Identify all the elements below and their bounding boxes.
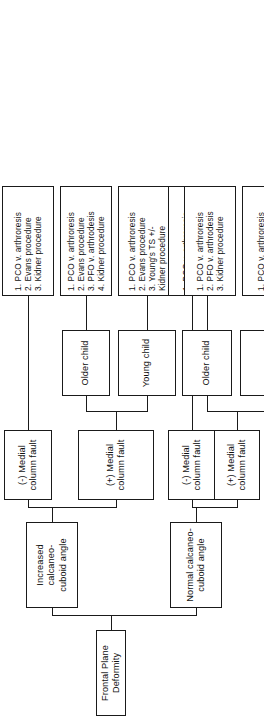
node-normal-calcaneocuboid-angle: Normal calcaneo- cuboid angle	[170, 522, 222, 608]
connector-nrm-pos-older	[207, 396, 208, 412]
connector-root-out	[111, 616, 112, 630]
connector-normal-out	[196, 508, 197, 522]
connector-inc-pos-older	[86, 396, 87, 412]
connector-nrm-pos-spine	[207, 411, 264, 412]
connector-to-increased	[52, 608, 53, 616]
connector-normal-pos	[237, 500, 238, 508]
node-label: Older child	[80, 339, 91, 388]
treatment-list: 1. PCO v. arthroresis 2. PFO v. arthrode…	[195, 207, 225, 295]
leaf-normal-young-child-treatments: 1. PCO v. arthroresis 2. Young's TS +/- …	[242, 186, 264, 296]
node-increased-negative-medial-column-fault: (-) Medial column fault	[4, 430, 52, 500]
node-normal-negative-medial-column-fault: (-) Medial column fault	[168, 430, 216, 500]
connector-increased-pos	[116, 500, 117, 508]
node-normal-older-child: Older child	[182, 330, 232, 396]
node-label: Young child	[141, 337, 152, 389]
connector-inc-pos-spine	[86, 411, 147, 412]
flowchart-canvas: Frontal Plane Deformity Increased calcan…	[0, 0, 264, 726]
node-label: Increased calcaneo- cuboid angle	[35, 523, 69, 607]
connector-root-spine	[52, 615, 196, 616]
treatment-list: 1. PCO v. arthroresis 2. Young's TS +/- …	[256, 208, 264, 295]
treatment-list: 1. PCO v. arthroresis 2. Evans procedure…	[127, 208, 167, 295]
connector-to-normal	[196, 608, 197, 616]
node-root-frontal-plane-deformity: Frontal Plane Deformity	[96, 630, 126, 716]
node-increased-calcaneocuboid-angle: Increased calcaneo- cuboid angle	[26, 522, 78, 608]
node-label: Frontal Plane Deformity	[100, 631, 122, 715]
treatment-list: 1. PCO v. arthroresis 2. Evans procedure…	[13, 208, 43, 295]
node-label: (+) Medial column fault	[105, 438, 127, 493]
connector-nrm-older-to-tx	[207, 296, 208, 330]
node-increased-older-child: Older child	[62, 330, 110, 396]
node-label: Older child	[201, 339, 212, 388]
connector-inc-older-to-tx	[86, 296, 87, 330]
connector-normal-spine	[192, 507, 237, 508]
connector-normal-neg	[192, 500, 193, 508]
node-label: (-) Medial column fault	[17, 438, 39, 493]
leaf-normal-older-child-treatments: 1. PCO v. arthroresis 2. PFO v. arthrode…	[184, 186, 236, 296]
connector-increased-out	[52, 508, 53, 522]
leaf-increased-older-child-treatments: 1. PCO v. arthroresis 2. Evans procedure…	[60, 186, 112, 296]
leaf-increased-negative-mcf-treatments: 1. PCO v. arthroresis 2. Evans procedure…	[2, 186, 54, 296]
node-label: (-) Medial column fault	[181, 438, 203, 493]
diagram-rotation-wrapper: Frontal Plane Deformity Increased calcan…	[0, 0, 264, 726]
connector-nrm-pos-out	[237, 412, 238, 430]
node-increased-positive-medial-column-fault: (+) Medial column fault	[78, 430, 154, 500]
connector-inc-neg-to-tx	[28, 296, 29, 430]
node-label: Normal calcaneo- cuboid angle	[185, 526, 207, 604]
connector-increased-neg	[28, 500, 29, 508]
node-normal-positive-medial-column-fault: (+) Medial column fault	[214, 430, 260, 500]
node-increased-young-child: Young child	[118, 330, 176, 396]
connector-inc-young-to-tx	[147, 296, 148, 330]
connector-increased-spine	[28, 507, 116, 508]
connector-inc-pos-out	[116, 412, 117, 430]
treatment-list: 1. PCO v. arthroresis 2. Evans procedure…	[66, 207, 106, 295]
node-label: (+) Medial column fault	[226, 438, 248, 493]
connector-inc-pos-young	[147, 396, 148, 412]
node-normal-young-child: Young child	[240, 330, 264, 396]
